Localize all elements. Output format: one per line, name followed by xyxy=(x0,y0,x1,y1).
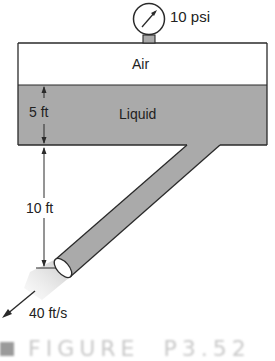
pipe-lower-wall xyxy=(70,145,220,277)
gauge-pressure-label: 10 psi xyxy=(170,9,210,25)
pipe-upper-wall xyxy=(56,145,187,259)
caption-number: P3.52 xyxy=(163,336,250,361)
caption-label: FIGURE xyxy=(28,336,139,361)
liquid-label: Liquid xyxy=(119,106,156,122)
liquid-depth-label: 5 ft xyxy=(29,104,48,120)
figure-caption: FIGURE P3.52 xyxy=(0,336,251,358)
pipe-drop-label: 10 ft xyxy=(26,200,53,216)
exit-velocity-label: 40 ft/s xyxy=(29,305,67,321)
pressure-gauge-icon xyxy=(134,4,165,44)
inclined-pipe xyxy=(56,145,220,277)
caption-bullet-icon xyxy=(0,342,14,356)
air-label: Air xyxy=(132,56,149,72)
